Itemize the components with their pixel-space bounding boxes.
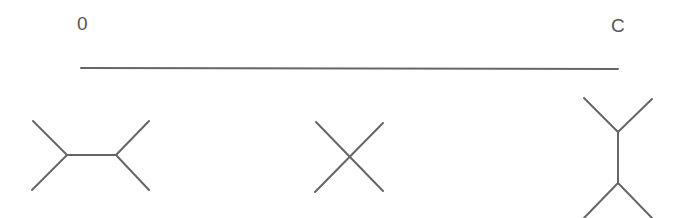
horizontal-split-tree <box>32 121 149 190</box>
axis-line <box>81 68 618 69</box>
diagram-canvas <box>0 0 688 218</box>
star-tree <box>315 122 383 192</box>
vertical-split-tree <box>584 98 652 218</box>
